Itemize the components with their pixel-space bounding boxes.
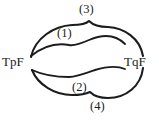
arc-3-curve xyxy=(31,21,143,57)
arc-label-3: (3) xyxy=(79,3,94,16)
arc-label-1: (1) xyxy=(57,27,72,40)
arc-label-2: (2) xyxy=(72,81,87,94)
node-label-tpf: TpF xyxy=(2,55,24,68)
arc-label-4: (4) xyxy=(90,100,105,113)
arc-2-curve xyxy=(32,67,125,77)
node-label-tqf: TqF xyxy=(124,55,146,68)
diagram-canvas: TpF TqF (1) (2) (3) (4) xyxy=(0,0,159,120)
arc-1-curve xyxy=(31,36,125,56)
